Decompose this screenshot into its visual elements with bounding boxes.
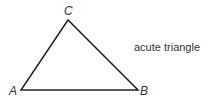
triangle-diagram: C A B acute triangle bbox=[0, 0, 215, 102]
triangle-shape bbox=[21, 20, 138, 90]
figure-caption: acute triangle bbox=[134, 41, 200, 53]
vertex-label-a: A bbox=[8, 84, 17, 98]
vertex-label-c: C bbox=[64, 4, 73, 18]
vertex-label-b: B bbox=[140, 84, 148, 98]
